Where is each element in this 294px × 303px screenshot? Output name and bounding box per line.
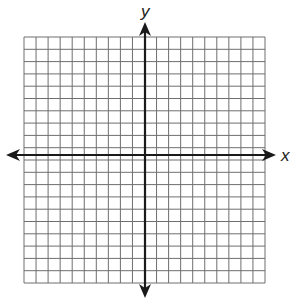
x-axis-label: x [280, 146, 290, 165]
coordinate-plane: x y [0, 0, 294, 303]
y-axis-label: y [140, 2, 151, 21]
